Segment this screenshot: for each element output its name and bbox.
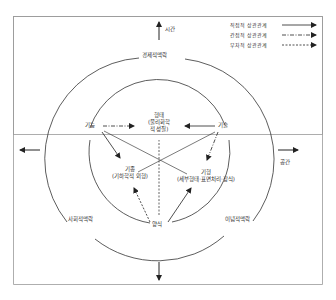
detail-node: 기형 (세부형태·표면처리·장식) <box>168 169 244 183</box>
function-node: 기능 <box>85 122 95 129</box>
legend-secondary-label: 부차적 상관관계 <box>230 42 267 48</box>
style-node: 양식 <box>152 221 162 228</box>
time-axis-label: 시간 <box>165 26 175 33</box>
form-node: 형태 (물리화학 적 성질) <box>141 112 177 133</box>
form-subtitle-2: 적 성질) <box>141 126 177 133</box>
space-axis-label: 공간 <box>280 159 290 166</box>
geometric-subtitle: (기하학적 외형) <box>106 173 154 180</box>
economic-context-label: 경제적맥락 <box>142 52 167 59</box>
geometric-node: 기종 (기하학적 외형) <box>106 166 154 180</box>
form-title: 형태 <box>141 112 177 119</box>
edge-technology-detail <box>207 132 218 160</box>
legend-direct-label: 직접적 상관관계 <box>230 22 267 28</box>
diagram-canvas <box>0 0 336 300</box>
edge-style-geometric <box>134 188 150 222</box>
edge-function-geometric <box>102 132 120 158</box>
ideological-context-label: 이념적맥락 <box>225 216 250 223</box>
outer-ring <box>45 58 139 222</box>
geometric-title: 기종 <box>106 166 154 173</box>
technology-node: 기술 <box>218 122 228 129</box>
social-context-label: 사회적맥락 <box>68 216 93 223</box>
legend-indirect-label: 간접적 상관관계 <box>230 32 267 38</box>
border-path <box>14 17 323 285</box>
detail-subtitle: (세부형태·표면처리·장식) <box>168 176 244 183</box>
detail-title: 기형 <box>168 169 244 176</box>
form-subtitle-1: (물리화학 <box>141 119 177 126</box>
